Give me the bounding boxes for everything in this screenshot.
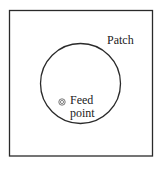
feed-point-label-line2: point xyxy=(70,107,95,120)
diagram-canvas xyxy=(0,0,164,172)
patch-label: Patch xyxy=(107,34,134,46)
circular-patch-antenna-diagram: Patch Feed point xyxy=(0,0,164,172)
feed-point-inner-ring xyxy=(60,100,63,103)
feed-point-outer-ring xyxy=(59,99,65,105)
feed-point-label: Feed point xyxy=(70,94,95,120)
feed-point-icon xyxy=(59,99,65,105)
